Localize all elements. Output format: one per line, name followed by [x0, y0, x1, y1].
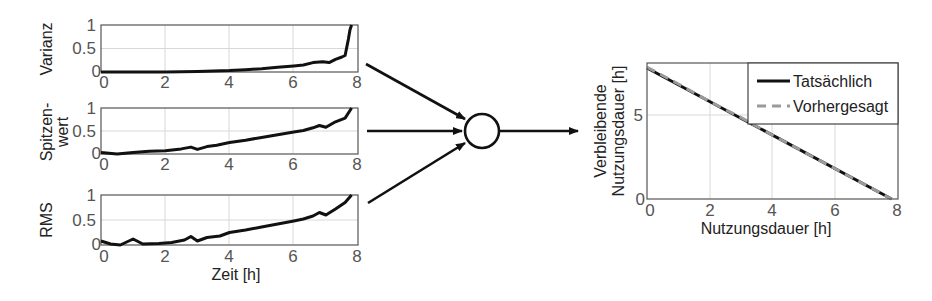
rms-xtick-6: 6: [288, 247, 297, 266]
spitzenwert-ylabel-line2: wert: [54, 116, 71, 148]
rul-ytick-5: 5: [634, 106, 643, 125]
zeit-xlabel: Zeit [h]: [212, 266, 261, 283]
rul-chart: Tatsächlich Vorhergesagt 5 0 0 2 4 6 8 V…: [592, 63, 902, 237]
legend-predicted-label: Vorhergesagt: [793, 98, 889, 115]
varianz-xtick-0: 0: [99, 73, 108, 92]
rul-xtick-4: 4: [767, 201, 776, 220]
rms-grid: [101, 195, 358, 245]
spitzenwert-ytick-1: 1: [87, 99, 96, 118]
spitzenwert-chart: 1 0.5 0 0 2 4 6 8 Spitzen- wert: [38, 99, 362, 174]
rul-legend: Tatsächlich Vorhergesagt: [748, 63, 898, 124]
rms-ylabel: RMS: [38, 202, 55, 238]
rul-ylabel-line1: Verbleibende: [592, 84, 609, 178]
varianz-xtick-2: 2: [160, 73, 169, 92]
spitzenwert-xtick-2: 2: [160, 155, 169, 174]
varianz-ylabel: Varianz: [38, 22, 55, 75]
spitzenwert-xtick-0: 0: [99, 155, 108, 174]
spitzenwert-ylabel-line1: Spitzen-: [38, 103, 55, 162]
model-node-circle: [465, 114, 499, 148]
rul-ytick-0: 0: [636, 190, 645, 209]
diagram-canvas: 1 0.5 0 0 2 4 6 8 Varianz 1 0.5 0 0 2 4 …: [0, 0, 932, 301]
rms-chart: 1 0.5 0 0 2 4 6 8 RMS Zeit [h]: [38, 186, 362, 283]
rms-ytick-1: 1: [87, 186, 96, 205]
spitzenwert-xtick-6: 6: [288, 155, 297, 174]
rul-xtick-6: 6: [830, 201, 839, 220]
legend-actual-label: Tatsächlich: [793, 73, 872, 90]
spitzenwert-xtick-8: 8: [352, 155, 361, 174]
arrow-rms-to-node: [368, 143, 465, 203]
rul-xtick-8: 8: [892, 201, 901, 220]
rul-ylabel-line2: Nutzungsdauer [h]: [610, 66, 627, 197]
varianz-chart: 1 0.5 0 0 2 4 6 8 Varianz: [38, 16, 362, 92]
rul-xlabel: Nutzungsdauer [h]: [701, 220, 832, 237]
arrow-varianz-to-node: [366, 64, 465, 119]
rms-ytick-05: 0.5: [72, 211, 96, 230]
varianz-xtick-6: 6: [288, 73, 297, 92]
varianz-ytick-05: 0.5: [72, 39, 96, 58]
rms-xtick-0: 0: [99, 247, 108, 266]
varianz-ytick-1: 1: [87, 16, 96, 35]
varianz-xtick-4: 4: [224, 73, 233, 92]
varianz-xtick-8: 8: [352, 73, 361, 92]
rms-xtick-8: 8: [352, 247, 361, 266]
varianz-grid: [101, 25, 358, 72]
spitzenwert-xtick-4: 4: [224, 155, 233, 174]
rul-xtick-0: 0: [645, 201, 654, 220]
spitzenwert-ytick-05: 0.5: [72, 122, 96, 141]
spitzenwert-grid: [101, 108, 358, 154]
rul-xtick-2: 2: [705, 201, 714, 220]
rms-xtick-4: 4: [224, 247, 233, 266]
rms-xtick-2: 2: [160, 247, 169, 266]
